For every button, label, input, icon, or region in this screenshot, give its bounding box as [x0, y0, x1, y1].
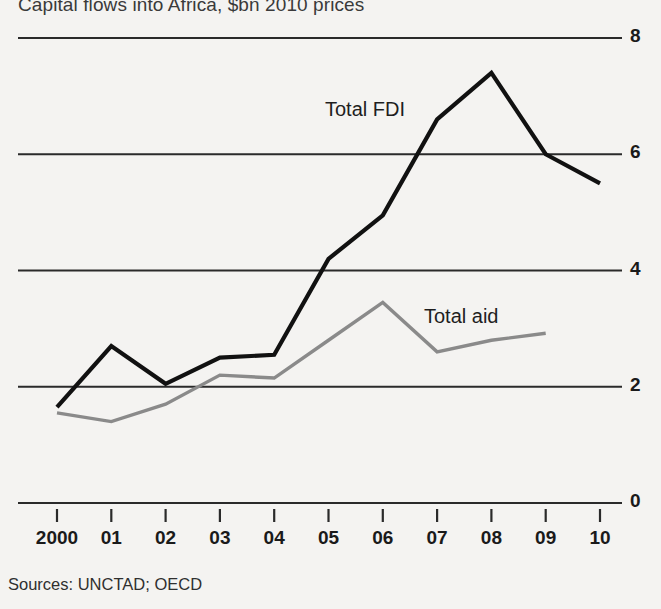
x-axis-label-06: 06: [358, 527, 408, 549]
series-line-total-fdi: [57, 73, 600, 407]
series-label-total-fdi: Total FDI: [325, 98, 405, 121]
x-axis-label-2000: 2000: [22, 527, 92, 549]
y-axis-label-0: 0: [630, 490, 660, 512]
chart-plot-area: [0, 0, 661, 609]
y-axis-label-8: 8: [630, 25, 660, 47]
x-axis-label-01: 01: [86, 527, 136, 549]
y-axis-label-2: 2: [630, 374, 660, 396]
series-lines: [57, 73, 600, 422]
x-axis-label-04: 04: [249, 527, 299, 549]
x-axis-label-10: 10: [575, 527, 625, 549]
x-axis-label-07: 07: [412, 527, 462, 549]
y-axis-label-4: 4: [630, 258, 660, 280]
x-axis-label-08: 08: [466, 527, 516, 549]
x-axis-ticks: [57, 509, 600, 522]
chart-source: Sources: UNCTAD; OECD: [8, 575, 202, 594]
x-axis-label-03: 03: [195, 527, 245, 549]
x-axis-label-02: 02: [141, 527, 191, 549]
x-axis-label-09: 09: [521, 527, 571, 549]
y-axis-label-6: 6: [630, 141, 660, 163]
chart-root: Capital flows into Africa, $bn 2010 pric…: [0, 0, 661, 609]
series-label-total-aid: Total aid: [424, 305, 499, 328]
x-axis-label-05: 05: [304, 527, 354, 549]
